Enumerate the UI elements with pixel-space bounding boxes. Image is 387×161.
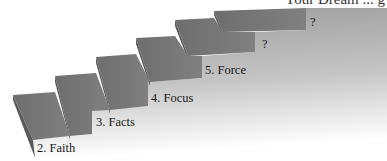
step-label-focus: 4. Focus <box>151 92 193 105</box>
step-label-facts: 3. Facts <box>96 116 135 129</box>
staircase-graphic <box>0 0 387 161</box>
step-6-tread <box>214 8 306 32</box>
step-label-force: 5. Force <box>205 64 246 77</box>
step-label-unknown-1: ? <box>262 38 268 51</box>
step-label-unknown-2: ? <box>310 16 316 29</box>
staircase-diagram: Your Dream ... g <box>0 0 387 161</box>
step-label-faith: 2. Faith <box>37 142 75 155</box>
